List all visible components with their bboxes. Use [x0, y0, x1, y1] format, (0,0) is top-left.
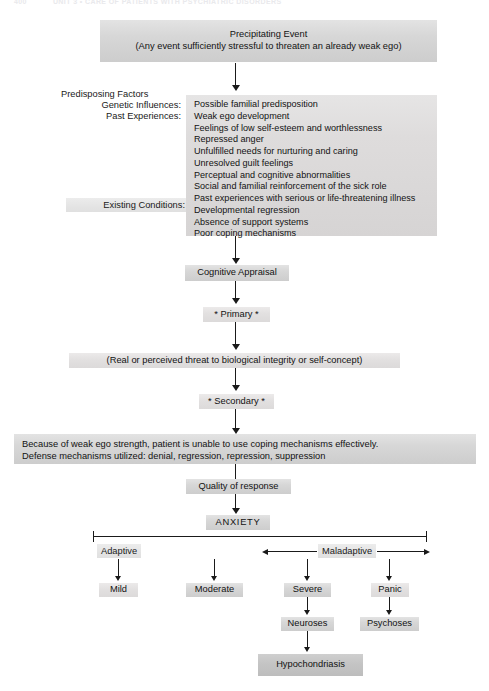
node-neuroses: Neuroses [281, 617, 334, 631]
factor-item: Feelings of low self-esteem and worthles… [194, 123, 430, 135]
arrowhead-precipitating-to-factors [232, 85, 240, 91]
arrowhead-severe [304, 576, 310, 581]
node-hypochondriasis: Hypochondriasis [258, 654, 363, 676]
factor-item: Absence of support systems [194, 217, 430, 229]
node-precipitating-event: Precipitating Event (Any event sufficien… [100, 20, 437, 62]
node-predisposing-factors-list: Possible familial predisposition Weak eg… [186, 95, 437, 236]
running-head-title: UNIT 3 • CARE OF PATIENTS WITH PSYCHIATR… [53, 0, 282, 5]
precipitating-event-line2: (Any event sufficiently stressful to thr… [136, 41, 402, 53]
connector-secondary-to-coping [235, 409, 236, 430]
scale-label-adaptive: Adaptive [97, 544, 141, 558]
connector-precipitating-to-factors [235, 63, 236, 87]
node-moderate: Moderate [186, 583, 243, 597]
connector-primary-to-threat [235, 322, 236, 346]
running-head: 400UNIT 3 • CARE OF PATIENTS WITH PSYCHI… [14, 0, 281, 5]
anxiety-scale-tick-right [426, 531, 427, 542]
node-secondary: * Secondary * [199, 394, 274, 409]
arrowhead-panic [386, 576, 392, 581]
arrowhead-mild [115, 576, 121, 581]
factor-item: Repressed anger [194, 134, 430, 146]
factor-item: Unresolved guilt feelings [194, 158, 430, 170]
arrowhead-moderate [211, 576, 217, 581]
page-number: 400 [14, 0, 27, 5]
existing-conditions-label: Existing Conditions: [66, 198, 189, 212]
node-mild: Mild [99, 583, 138, 597]
node-severe: Severe [284, 583, 331, 597]
node-panic: Panic [371, 583, 409, 597]
coping-line2: Defense mechanisms utilized: denial, reg… [22, 450, 468, 462]
arrowhead-appraisal-to-primary [232, 298, 240, 304]
anxiety-scale-line [93, 536, 427, 537]
coping-line1: Because of weak ego strength, patient is… [22, 438, 468, 450]
factor-item: Weak ego development [194, 111, 430, 123]
node-threat-appraisal: (Real or perceived threat to biological … [69, 353, 400, 368]
connector-factors-to-appraisal [235, 236, 236, 260]
precipitating-event-line1: Precipitating Event [230, 29, 308, 41]
node-cognitive-appraisal: Cognitive Appraisal [185, 265, 289, 281]
arrowhead-factors-to-appraisal [232, 258, 240, 264]
maladaptive-arrow-right-shaft [377, 551, 425, 552]
arrowhead-neuroses [304, 610, 310, 615]
maladaptive-arrow-right-head [424, 549, 430, 555]
factor-item: Perceptual and cognitive abnormalities [194, 170, 430, 182]
arrowhead-psychoses [386, 610, 392, 615]
node-anxiety: ANXIETY [206, 515, 270, 530]
anxiety-scale-tick-left [93, 531, 94, 542]
past-experiences-label: Past Experiences: [61, 110, 181, 122]
factor-item: Developmental regression [194, 205, 430, 217]
factor-item: Unfulfilled needs for nurturing and cari… [194, 146, 430, 158]
factor-item: Possible familial predisposition [194, 99, 430, 111]
arrowhead-quality-to-anxiety [232, 508, 240, 514]
node-quality-of-response: Quality of response [186, 479, 291, 494]
scale-label-maladaptive: Maladaptive [318, 544, 376, 558]
node-primary: * Primary * [203, 307, 270, 322]
arrowhead-threat-to-secondary [232, 385, 240, 391]
factor-item: Social and familial reinforcement of the… [194, 181, 430, 193]
factor-item: Poor coping mechanisms [194, 228, 430, 240]
factor-item: Past experiences with serious or life-th… [194, 193, 430, 205]
arrowhead-primary-to-threat [232, 344, 240, 350]
flowchart-page: 400UNIT 3 • CARE OF PATIENTS WITH PSYCHI… [0, 0, 489, 691]
node-coping-mechanisms: Because of weak ego strength, patient is… [14, 434, 476, 464]
node-psychoses: Psychoses [360, 617, 419, 631]
arrowhead-hypochondriasis [304, 647, 310, 652]
maladaptive-arrow-left-shaft [267, 551, 317, 552]
